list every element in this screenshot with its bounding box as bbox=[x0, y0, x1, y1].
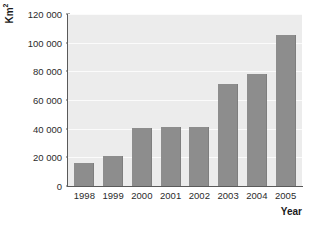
bar-2003 bbox=[218, 84, 238, 186]
x-axis-line bbox=[67, 186, 303, 187]
y-axis-title-base: Km bbox=[4, 7, 15, 23]
y-axis-tick-label: 100 000 bbox=[28, 37, 62, 48]
x-axis-tick-label: 2003 bbox=[214, 190, 243, 206]
x-axis-tick-label: 2001 bbox=[156, 190, 185, 206]
plot-area bbox=[68, 14, 302, 186]
x-axis-tick-label: 2002 bbox=[185, 190, 214, 206]
y-axis-tick-label: 0 bbox=[57, 181, 62, 192]
y-axis-tick-label: 80 000 bbox=[33, 66, 62, 77]
bar-2005 bbox=[276, 35, 296, 186]
y-axis-tick-label: 20 000 bbox=[33, 152, 62, 163]
x-axis-tick-labels: 19981999200020012002200320042005 bbox=[68, 190, 302, 206]
bar-2000 bbox=[132, 128, 152, 186]
y-axis-tick-label: 60 000 bbox=[33, 95, 62, 106]
x-axis-title: Year bbox=[281, 206, 302, 217]
bar-1999 bbox=[103, 156, 123, 186]
x-axis-tick-label: 1999 bbox=[99, 190, 128, 206]
bars-container bbox=[68, 14, 302, 186]
y-axis-tick-label: 120 000 bbox=[28, 9, 62, 20]
bar-1998 bbox=[74, 163, 94, 186]
bar-2001 bbox=[161, 127, 181, 186]
x-axis-tick-label: 1998 bbox=[70, 190, 99, 206]
y-axis-line bbox=[67, 14, 68, 187]
x-axis-tick-label: 2004 bbox=[243, 190, 272, 206]
bar-2004 bbox=[247, 74, 267, 186]
y-axis-tick-labels: 020 00040 00060 00080 000100 000120 000 bbox=[16, 14, 66, 186]
y-axis-title-superscript: 2 bbox=[2, 3, 9, 7]
bar-chart: Km2 020 00040 00060 00080 000100 000120 … bbox=[0, 0, 311, 228]
y-axis-title-text: Km2 bbox=[4, 3, 15, 23]
bar-2002 bbox=[189, 127, 209, 186]
x-axis-tick-label: 2000 bbox=[128, 190, 157, 206]
x-axis-tick-label: 2005 bbox=[271, 190, 300, 206]
y-axis-tick-label: 40 000 bbox=[33, 123, 62, 134]
